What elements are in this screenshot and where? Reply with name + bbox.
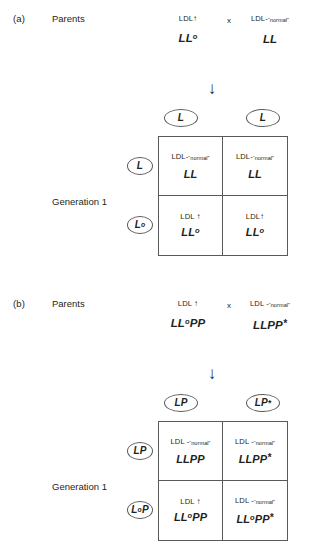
gamete-circle: Lo <box>127 216 153 234</box>
panel-a-punnett-square: LDL-“normal” LL LDL-“normal” LL LDL ↑ LL… <box>158 136 288 256</box>
panel-a-parent-cross: LDL↑ LLo x LDL-“normal” LL <box>155 14 315 58</box>
cell-phenotype: LDL↑ <box>246 212 264 222</box>
genotype-main: LL <box>236 513 250 525</box>
genotype-main: LLPP <box>176 453 205 465</box>
phenotype-subscript: “normal” <box>269 302 290 308</box>
cell-phenotype: LDL-“normal” <box>171 152 209 163</box>
genotype-tail: PP <box>190 317 206 329</box>
phenotype-text: LDL - <box>250 299 269 308</box>
genotype-tail: PP <box>255 513 270 525</box>
panel-b-parent-right: LDL -“normal” LLPP* <box>237 299 303 331</box>
panel-b-generation-label: Generation 1 <box>52 481 107 492</box>
cell-phenotype: LDL -“normal” <box>235 437 275 448</box>
phenotype-text: LDL <box>178 299 192 308</box>
cell-phenotype: LDL -“normal” <box>170 437 210 448</box>
phenotype-subscript: “normal” <box>254 500 275 506</box>
genotype-main: LL <box>248 168 262 180</box>
gamete-circle: LP <box>127 442 153 460</box>
gamete-label: L <box>178 113 184 123</box>
panel-b-punnett-square: LDL -“normal” LLPP LDL -“normal” LLPP* L… <box>158 421 288 541</box>
genotype-main: LL <box>181 227 195 239</box>
gamete-circle: LP <box>164 394 198 412</box>
genotype-main: LL <box>246 227 260 239</box>
cell-genotype: LL <box>184 168 198 180</box>
panel-b-parent-right-phenotype: LDL -“normal” <box>237 299 303 310</box>
gamete-circle: L <box>127 157 153 175</box>
punnett-cell: LDL -“normal” LLoPP* <box>223 481 287 540</box>
panel-b-gamete-side-1: LP <box>127 442 153 460</box>
ldl-up-arrow-icon: ↑ <box>194 299 198 308</box>
punnett-cell: LDL -“normal” LLPP* <box>223 422 287 481</box>
panel-a-parent-left-genotype: LLo <box>155 32 221 44</box>
cell-genotype: LLPP* <box>239 452 272 465</box>
panel-b-parent-left: LDL ↑ LLoPP <box>155 299 221 329</box>
phenotype-text: LDL <box>246 212 260 221</box>
genotype-main: LLPP <box>239 453 268 465</box>
cell-genotype: LLPP <box>176 453 205 465</box>
gamete-circle: L <box>246 109 280 127</box>
ldl-up-arrow-icon: ↑ <box>197 212 201 221</box>
panel-a-gamete-side-2: Lo <box>127 216 153 234</box>
punnett-cell: LDL ↑ LLo <box>159 196 223 255</box>
phenotype-text: LDL <box>180 497 194 506</box>
ldl-up-arrow-icon: ↑ <box>197 497 201 506</box>
punnett-cell: LDL↑ LLo <box>223 196 287 255</box>
genotype-main: LL <box>263 33 277 45</box>
genotype-main: LL <box>179 32 193 44</box>
phenotype-subscript: “normal” <box>268 17 289 23</box>
phenotype-text: LDL <box>180 212 194 221</box>
gamete-label: LP <box>255 398 268 408</box>
cell-genotype: LLoPP* <box>236 512 273 525</box>
genotype-superscript: o <box>193 32 198 41</box>
panel-b-parents-label: Parents <box>52 298 85 309</box>
panel-a-generation-label: Generation 1 <box>52 196 107 207</box>
panel-b-gamete-side-2: LoP <box>127 501 153 519</box>
phenotype-text: LDL - <box>235 496 254 505</box>
cell-phenotype: LDL -“normal” <box>235 496 275 507</box>
panel-a-cross-symbol: x <box>221 16 237 25</box>
phenotype-subscript: “normal” <box>253 156 274 162</box>
phenotype-text: LDL- <box>236 152 253 161</box>
genotype-superscript: o <box>195 226 200 235</box>
cell-phenotype: LDL ↑ <box>180 497 200 507</box>
cell-genotype: LLo <box>246 226 264 238</box>
punnett-cell: LDL-“normal” LL <box>159 137 223 196</box>
panel-a-letter: (a) <box>13 13 25 24</box>
gamete-circle: LP* <box>246 394 280 412</box>
gamete-label: L <box>137 161 143 171</box>
phenotype-text: LDL- <box>251 14 268 23</box>
cell-genotype: LLoPP <box>174 511 207 523</box>
phenotype-subscript: “normal” <box>254 440 275 446</box>
cell-phenotype: LDL-“normal” <box>236 152 274 163</box>
genotype-main: LL <box>171 317 185 329</box>
panel-a-down-arrow-icon: ↓ <box>205 80 219 97</box>
panel-a-gamete-side-1: L <box>127 157 153 175</box>
panel-b-cross-symbol: x <box>221 301 237 310</box>
panel-a-parent-right-phenotype: LDL-“normal” <box>237 14 303 25</box>
phenotype-subscript: “normal” <box>188 156 209 162</box>
genotype-main: LL <box>174 512 188 524</box>
genotype-star: * <box>270 512 274 523</box>
gamete-label: LP <box>174 398 187 408</box>
panel-a-parent-left: LDL↑ LLo <box>155 14 221 44</box>
panel-b-gamete-top-1: LP <box>164 394 198 412</box>
gamete-star: * <box>268 399 272 408</box>
punnett-cell: LDL -“normal” LLPP <box>159 422 223 481</box>
panel-b-gamete-top-2: LP* <box>246 394 280 412</box>
gamete-circle: L <box>164 109 198 127</box>
gamete-circle: LoP <box>127 501 153 519</box>
panel-a-parent-right: LDL-“normal” LL <box>237 14 303 45</box>
punnett-cell: LDL-“normal” LL <box>223 137 287 196</box>
panel-b-parent-left-phenotype: LDL ↑ <box>155 299 221 309</box>
phenotype-text: LDL - <box>170 437 189 446</box>
gamete-label: L <box>260 113 266 123</box>
genotype-star: * <box>283 318 287 329</box>
genotype-superscript: o <box>259 226 264 235</box>
panel-a-parent-right-genotype: LL <box>237 33 303 45</box>
panel-a-gamete-top-1: L <box>164 109 198 127</box>
phenotype-text: LDL - <box>235 437 254 446</box>
phenotype-text: LDL- <box>171 152 188 161</box>
genotype-tail: PP <box>192 512 207 524</box>
phenotype-subscript: “normal” <box>189 441 210 447</box>
panel-a-parents-label: Parents <box>52 13 85 24</box>
